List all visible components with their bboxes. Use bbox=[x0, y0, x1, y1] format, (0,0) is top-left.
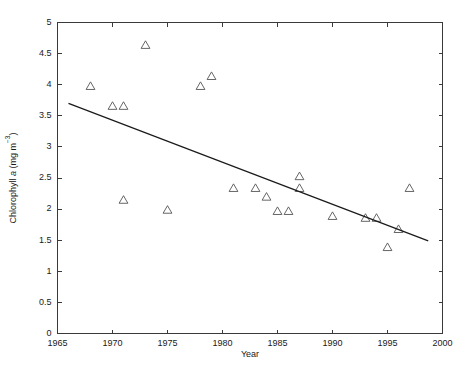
y-tick-label: 1 bbox=[46, 266, 51, 276]
x-tick-label: 1995 bbox=[377, 338, 397, 348]
data-point-marker bbox=[86, 82, 95, 90]
data-point-marker bbox=[196, 82, 205, 90]
x-tick-label: 1975 bbox=[157, 338, 177, 348]
trend-line bbox=[69, 103, 429, 240]
y-tick-label: 0.5 bbox=[39, 297, 52, 307]
y-tick-label: 3 bbox=[46, 141, 51, 151]
data-point-markers bbox=[86, 41, 414, 251]
y-axis-tick-labels: 00.511.522.533.544.55 bbox=[39, 17, 52, 338]
data-point-marker bbox=[284, 207, 293, 215]
y-tick-label: 5 bbox=[46, 17, 51, 27]
y-tick-label: 2.5 bbox=[39, 172, 52, 182]
x-tick-label: 2000 bbox=[432, 338, 452, 348]
data-point-marker bbox=[295, 172, 304, 180]
data-point-marker bbox=[119, 102, 128, 110]
data-point-marker bbox=[328, 212, 337, 220]
x-axis-title-text: Year bbox=[241, 349, 259, 359]
y-tick-label: 3.5 bbox=[39, 110, 52, 120]
data-point-marker bbox=[273, 207, 282, 215]
data-point-marker bbox=[251, 184, 260, 192]
data-point-marker bbox=[163, 206, 172, 214]
y-axis-ticks bbox=[58, 23, 443, 334]
data-point-marker bbox=[108, 102, 117, 110]
y-axis-title: Chlorophyll a (mg m−3) bbox=[4, 133, 19, 224]
x-axis-title: Year bbox=[241, 349, 259, 359]
x-axis-tick-labels: 19651970197519801985199019952000 bbox=[47, 338, 452, 348]
data-point-marker bbox=[405, 184, 414, 192]
x-tick-label: 1970 bbox=[102, 338, 122, 348]
y-tick-label: 1.5 bbox=[39, 235, 52, 245]
y-tick-label: 2 bbox=[46, 203, 51, 213]
data-point-marker bbox=[207, 72, 216, 80]
data-point-marker bbox=[119, 196, 128, 204]
x-tick-label: 1980 bbox=[212, 338, 232, 348]
plot-frame bbox=[58, 23, 443, 334]
data-point-marker bbox=[229, 184, 238, 192]
data-point-marker bbox=[383, 243, 392, 251]
chart-figure: 00.511.522.533.544.55 196519701975198019… bbox=[0, 0, 470, 374]
y-axis-title-text: Chlorophyll a (mg m−3) bbox=[4, 133, 19, 224]
y-tick-label: 4 bbox=[46, 79, 51, 89]
data-point-marker bbox=[262, 193, 271, 201]
x-tick-label: 1965 bbox=[47, 338, 67, 348]
x-axis-ticks bbox=[58, 23, 443, 334]
x-tick-label: 1990 bbox=[322, 338, 342, 348]
y-tick-label: 0 bbox=[46, 328, 51, 338]
scatter-chart: 00.511.522.533.544.55 196519701975198019… bbox=[0, 0, 470, 374]
data-point-marker bbox=[141, 41, 150, 49]
x-tick-label: 1985 bbox=[267, 338, 287, 348]
y-tick-label: 4.5 bbox=[39, 48, 52, 58]
trend-line-segment bbox=[69, 103, 429, 240]
